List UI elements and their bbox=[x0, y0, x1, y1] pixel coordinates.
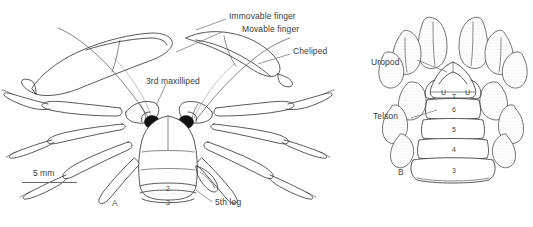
right-walking-legs bbox=[196, 90, 334, 204]
right-cheliped bbox=[186, 32, 293, 87]
label-telson: Telson bbox=[373, 112, 398, 121]
label-cheliped: Cheliped bbox=[293, 47, 327, 56]
segment-number-2: 2 bbox=[166, 185, 170, 192]
panel-b-segment-3: 3 bbox=[452, 167, 456, 174]
panel-b-label: B bbox=[398, 167, 404, 177]
left-cheliped bbox=[21, 33, 172, 96]
scale-bar-line bbox=[22, 182, 77, 183]
panel-b-segment-4: 4 bbox=[452, 146, 456, 153]
structure-letter-uropod-right: U bbox=[465, 89, 470, 96]
label-third-maxilliped: 3rd maxilliped bbox=[146, 77, 200, 86]
fifth-leg-structure bbox=[196, 166, 218, 192]
segment-number-3: 3 bbox=[166, 199, 170, 206]
label-uropod: Uropod bbox=[371, 58, 399, 67]
structure-letter-telson: T bbox=[452, 93, 456, 100]
left-walking-legs bbox=[2, 90, 140, 204]
structure-letter-uropod-left: U bbox=[441, 89, 446, 96]
panel-b-segment-6: 6 bbox=[452, 106, 456, 113]
label-movable-finger: Movable finger bbox=[242, 25, 299, 34]
scale-bar-label: 5 mm bbox=[33, 168, 54, 178]
label-immovable-finger: Immovable finger bbox=[229, 12, 296, 21]
figure-canvas: Immovable finger Movable finger Cheliped… bbox=[0, 0, 533, 227]
panel-a-label: A bbox=[112, 198, 118, 208]
label-fifth-leg: 5th leg bbox=[215, 198, 241, 207]
panel-b-segment-5: 5 bbox=[452, 126, 456, 133]
panel-a-drawing bbox=[0, 0, 360, 227]
